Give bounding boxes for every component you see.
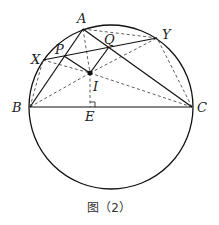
label-A: A bbox=[76, 11, 86, 26]
label-Y: Y bbox=[162, 27, 172, 42]
label-I: I bbox=[92, 79, 99, 94]
segment-BI bbox=[30, 73, 90, 107]
label-B: B bbox=[11, 100, 22, 115]
right-angle-mark bbox=[90, 102, 95, 107]
label-C: C bbox=[197, 100, 207, 115]
segment-PI bbox=[64, 56, 90, 73]
segment-IY bbox=[90, 38, 157, 73]
segment-CY bbox=[157, 38, 192, 107]
label-E: E bbox=[84, 109, 95, 124]
label-P: P bbox=[54, 42, 64, 57]
segment-CA bbox=[83, 29, 192, 107]
geometry-diagram: A X P Q Y I B C E 图（2） bbox=[0, 0, 219, 225]
label-Q: Q bbox=[104, 32, 115, 47]
segment-XI bbox=[43, 60, 90, 73]
figure-caption: 图（2） bbox=[87, 201, 131, 215]
label-X: X bbox=[30, 52, 41, 67]
segment-CI bbox=[90, 73, 192, 107]
incenter-point bbox=[88, 71, 93, 76]
segment-AB bbox=[30, 29, 83, 107]
